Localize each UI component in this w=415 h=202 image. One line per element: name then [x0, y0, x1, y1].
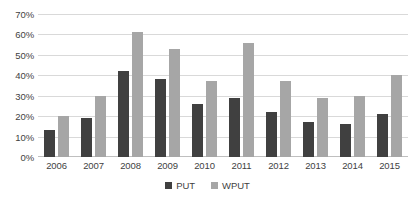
bar-wput-2007[interactable]	[95, 96, 106, 157]
legend-swatch-icon	[211, 182, 218, 189]
bar-group	[149, 14, 186, 157]
y-tick-label: 30%	[15, 90, 34, 101]
bar-group	[75, 14, 112, 157]
legend-swatch-icon	[165, 182, 172, 189]
plot-area	[38, 14, 408, 157]
x-tick-label: 2007	[75, 160, 112, 171]
bar-put-2006[interactable]	[44, 130, 55, 157]
bar-wput-2013[interactable]	[317, 98, 328, 157]
x-tick-label: 2010	[186, 160, 223, 171]
bar-put-2015[interactable]	[377, 114, 388, 157]
legend-label: PUT	[176, 180, 195, 191]
bar-wput-2014[interactable]	[354, 96, 365, 157]
bar-put-2011[interactable]	[229, 98, 240, 157]
bar-put-2013[interactable]	[303, 122, 314, 157]
bar-group	[223, 14, 260, 157]
chart-legend: PUTWPUT	[0, 180, 415, 191]
x-tick-label: 2009	[149, 160, 186, 171]
bar-wput-2011[interactable]	[243, 43, 254, 157]
bar-put-2009[interactable]	[155, 79, 166, 157]
bar-group	[371, 14, 408, 157]
bar-group	[297, 14, 334, 157]
bar-group	[38, 14, 75, 157]
y-tick-label: 70%	[15, 9, 34, 20]
y-tick-label: 10%	[15, 131, 34, 142]
x-tick-label: 2008	[112, 160, 149, 171]
bar-put-2010[interactable]	[192, 104, 203, 157]
legend-item-wput[interactable]: WPUT	[211, 180, 250, 191]
legend-item-put[interactable]: PUT	[165, 180, 195, 191]
bar-put-2014[interactable]	[340, 124, 351, 157]
bar-groups	[38, 14, 408, 157]
y-tick-label: 60%	[15, 29, 34, 40]
x-tick-label: 2011	[223, 160, 260, 171]
bar-wput-2010[interactable]	[206, 81, 217, 157]
bar-wput-2012[interactable]	[280, 81, 291, 157]
legend-label: WPUT	[222, 180, 250, 191]
bar-put-2012[interactable]	[266, 112, 277, 157]
bar-group	[260, 14, 297, 157]
y-tick-label: 0%	[20, 152, 34, 163]
bar-wput-2009[interactable]	[169, 49, 180, 157]
x-tick-label: 2015	[371, 160, 408, 171]
x-tick-label: 2012	[260, 160, 297, 171]
bar-group	[112, 14, 149, 157]
bar-put-2007[interactable]	[81, 118, 92, 157]
x-tick-label: 2013	[297, 160, 334, 171]
y-axis-labels: 0%10%20%30%40%50%60%70%	[0, 0, 34, 171]
y-tick-label: 40%	[15, 70, 34, 81]
y-tick-label: 20%	[15, 111, 34, 122]
bar-group	[334, 14, 371, 157]
y-tick-label: 50%	[15, 49, 34, 60]
x-tick-label: 2006	[38, 160, 75, 171]
bar-put-2008[interactable]	[118, 71, 129, 157]
bar-wput-2015[interactable]	[391, 75, 402, 157]
bar-chart: 0%10%20%30%40%50%60%70% 2006200720082009…	[0, 0, 415, 202]
bar-wput-2006[interactable]	[58, 116, 69, 157]
bar-wput-2008[interactable]	[132, 32, 143, 157]
x-tick-label: 2014	[334, 160, 371, 171]
bar-group	[186, 14, 223, 157]
x-axis-labels: 2006200720082009201020112012201320142015	[38, 160, 408, 171]
